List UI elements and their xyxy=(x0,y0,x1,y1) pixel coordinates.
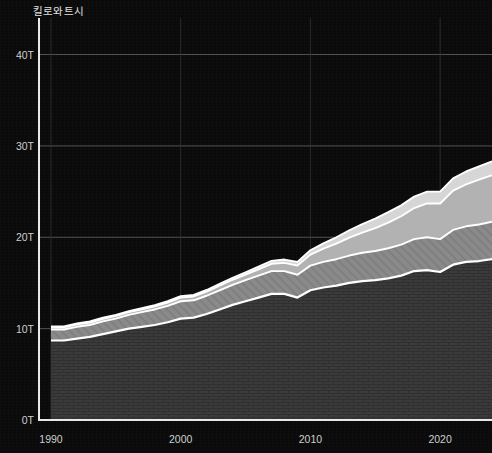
x-tick-label: 1990 xyxy=(39,433,62,445)
y-axis-title: 킬로와트시 xyxy=(33,3,84,18)
x-tick-label: 2020 xyxy=(428,433,451,445)
y-axis-line xyxy=(38,18,40,420)
y-tick-label: 0T xyxy=(4,414,34,426)
y-tick-label: 40T xyxy=(4,49,34,61)
y-axis-tick-labels: 0T10T20T30T40T xyxy=(0,0,34,453)
y-tick-label: 30T xyxy=(4,140,34,152)
y-tick-label: 20T xyxy=(4,231,34,243)
x-tick-label: 2010 xyxy=(299,433,322,445)
plot-area xyxy=(38,18,492,420)
plot-svg xyxy=(38,18,492,420)
stacked-area-chart: 킬로와트시 0T10T20T30T40T xyxy=(0,0,492,453)
x-axis-line xyxy=(38,419,492,421)
y-tick-label: 10T xyxy=(4,323,34,335)
area-bands xyxy=(51,161,492,420)
x-tick-label: 2000 xyxy=(169,433,192,445)
